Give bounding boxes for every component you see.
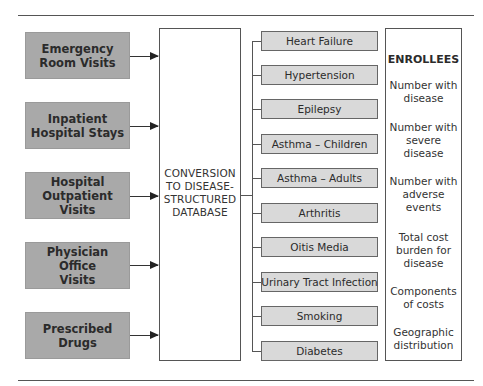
disease-arthritis: Arthritis: [261, 203, 378, 223]
enrollee-metric-adverse-events: Number with adverse events: [386, 175, 461, 214]
tree-branch: [252, 351, 261, 352]
metric-line: events: [406, 201, 441, 213]
source-label-line: Prescribed: [43, 322, 112, 336]
metric-line: disease: [404, 147, 444, 159]
enrollees-title: ENROLLEES: [386, 53, 461, 66]
metric-line: Number with: [390, 79, 458, 91]
source-label-line: Drugs: [58, 336, 96, 350]
source-label-line: Inpatient: [48, 112, 107, 126]
tree-branch: [252, 213, 261, 214]
tree-branch: [252, 316, 261, 317]
disease-smoking: Smoking: [261, 306, 378, 326]
disease-otitis-media: Oitis Media: [261, 237, 378, 257]
conversion-database-label: CONVERSION TO DISEASE- STRUCTURED DATABA…: [160, 167, 240, 219]
disease-diabetes: Diabetes: [261, 341, 378, 361]
source-prescribed-drugs: PrescribedDrugs: [25, 312, 130, 359]
disease-asthma-children: Asthma – Children: [261, 134, 378, 154]
enrollees-box: ENROLLEES Number with disease Number wit…: [385, 28, 462, 361]
metric-line: disease: [404, 92, 444, 104]
source-label-line: Outpatient Visits: [42, 189, 112, 217]
metric-line: of costs: [403, 298, 444, 310]
central-label-line: DATABASE: [172, 206, 228, 218]
metric-line: disease: [404, 257, 444, 269]
source-label-line: Hospital: [51, 175, 105, 189]
arrow-right-icon: [130, 126, 158, 127]
arrow-right-icon: [130, 265, 158, 266]
enrollee-metric-severe-disease: Number with severe disease: [386, 121, 461, 160]
source-label-line: Visits: [60, 273, 96, 287]
disease-epilepsy: Epilepsy: [261, 99, 378, 119]
tree-branch: [252, 75, 261, 76]
disease-asthma-adults: Asthma – Adults: [261, 168, 378, 188]
tree-branch: [252, 282, 261, 283]
tree-branch: [252, 109, 261, 110]
top-rule: [18, 15, 474, 16]
source-physician-office-visits: Physician OfficeVisits: [25, 242, 130, 289]
metric-line: Geographic: [393, 326, 453, 338]
tree-branch: [252, 41, 261, 42]
central-label-line: TO DISEASE-: [166, 180, 234, 192]
metric-line: adverse: [402, 188, 444, 200]
bottom-rule: [18, 380, 474, 381]
source-emergency-room-visits: EmergencyRoom Visits: [25, 32, 130, 79]
enrollee-metric-total-cost: Total cost burden for disease: [386, 231, 461, 270]
disease-urinary-tract-infection: Urinary Tract Infection: [261, 272, 378, 292]
enrollee-metric-number-with-disease: Number with disease: [386, 79, 461, 105]
source-label-line: Emergency: [42, 42, 114, 56]
disease-hypertension: Hypertension: [261, 65, 378, 85]
central-connector: [241, 195, 252, 196]
metric-line: distribution: [394, 339, 454, 351]
source-label-line: Room Visits: [39, 56, 115, 70]
disease-heart-failure: Heart Failure: [261, 31, 378, 51]
arrow-right-icon: [130, 56, 158, 57]
metric-line: Total cost: [399, 231, 449, 243]
metric-line: Components: [390, 285, 456, 297]
metric-line: Number with: [390, 175, 458, 187]
source-hospital-outpatient-visits: HospitalOutpatient Visits: [25, 172, 130, 219]
conversion-database-box: CONVERSION TO DISEASE- STRUCTURED DATABA…: [159, 28, 241, 361]
source-inpatient-hospital-stays: InpatientHospital Stays: [25, 102, 130, 149]
arrow-right-icon: [130, 335, 158, 336]
metric-line: Number with: [390, 121, 458, 133]
source-label-line: Hospital Stays: [31, 126, 124, 140]
metric-line: burden for: [396, 244, 451, 256]
metric-line: severe: [406, 134, 441, 146]
central-label-line: CONVERSION: [164, 167, 235, 179]
tree-branch: [252, 144, 261, 145]
source-label-line: Physician Office: [47, 245, 109, 273]
tree-trunk: [252, 41, 253, 351]
tree-branch: [252, 247, 261, 248]
enrollee-metric-cost-components: Components of costs: [386, 285, 461, 311]
enrollee-metric-geographic-distribution: Geographic distribution: [386, 326, 461, 352]
central-label-line: STRUCTURED: [164, 193, 237, 205]
tree-branch: [252, 178, 261, 179]
arrow-right-icon: [130, 196, 158, 197]
